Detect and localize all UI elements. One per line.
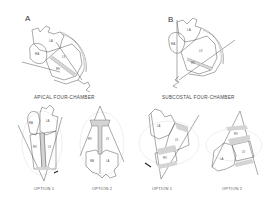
- label-lv: LV: [62, 55, 65, 59]
- subcostal-option-2-diagram: RV LV LA: [200, 105, 267, 185]
- label-ra: RA: [35, 52, 39, 56]
- subcostal-four-chamber-caption: SUBCOSTAL FOUR-CHAMBER: [162, 95, 235, 100]
- apical-four-chamber-heart-diagram: LA RA LV RV: [20, 18, 120, 93]
- label-rv: RV: [163, 156, 167, 160]
- label-la: LA: [187, 28, 191, 32]
- label-ra: RA: [29, 121, 33, 125]
- label-lv: LV: [242, 150, 245, 154]
- label-la: LA: [46, 119, 50, 123]
- label-lv: LV: [48, 145, 51, 149]
- label-lv: LV: [175, 138, 178, 142]
- label-ra: RA: [90, 159, 94, 163]
- subcostal-four-chamber-heart-diagram: LA RA LV RV: [165, 12, 265, 92]
- subcostal-option-2-label: OPTION 2: [222, 186, 242, 191]
- label-rv: RV: [234, 132, 238, 136]
- label-la: LA: [49, 39, 53, 43]
- apical-option-1-label: OPTION 1: [34, 186, 54, 191]
- label-rv: RV: [88, 137, 92, 141]
- apical-option-2-label: OPTION 2: [92, 186, 112, 191]
- label-lv: LV: [106, 137, 109, 141]
- label-rv: RV: [56, 67, 60, 71]
- subcostal-option-1-label: OPTION 1: [152, 186, 172, 191]
- apical-option-1-diagram: RA LA RV LV: [12, 103, 70, 183]
- label-rv: RV: [33, 145, 37, 149]
- label-la: LA: [220, 157, 224, 161]
- label-la: LA: [106, 159, 110, 163]
- label-lv: LV: [199, 49, 202, 53]
- label-rv: RV: [191, 61, 195, 65]
- label-la: LA: [157, 124, 161, 128]
- label-ra: RA: [171, 42, 175, 46]
- subcostal-option-1-diagram: LA LV RV: [135, 105, 205, 185]
- apical-option-2-diagram: RV LV RA LA: [72, 100, 132, 185]
